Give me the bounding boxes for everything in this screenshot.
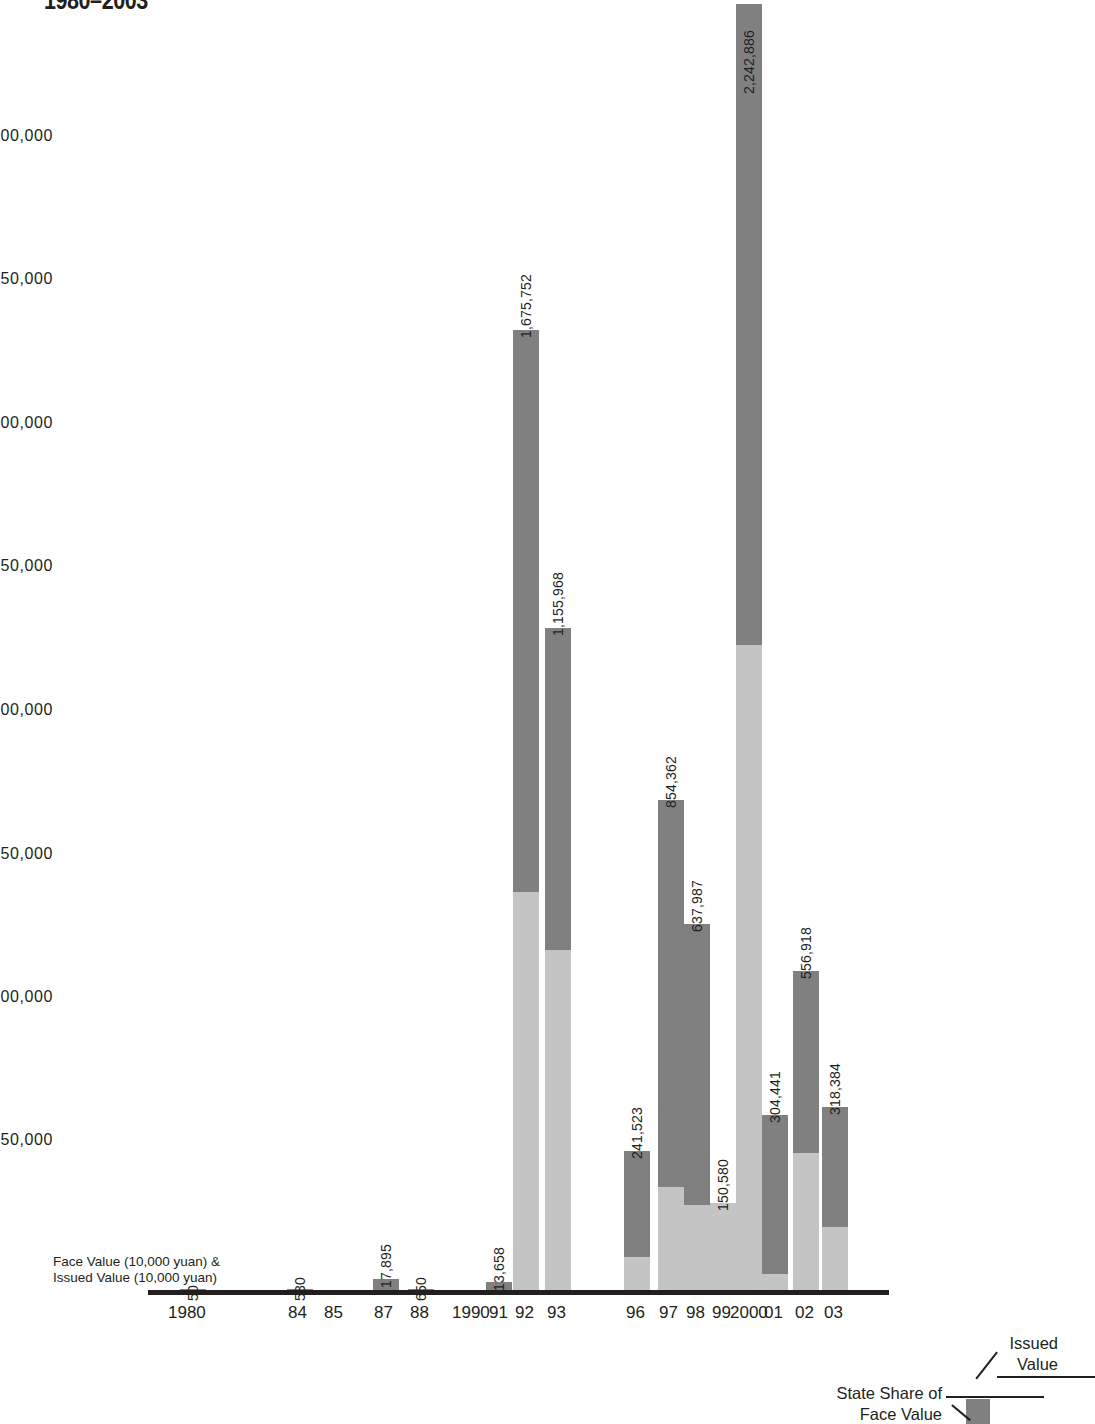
bar-value-label: 17,895 bbox=[378, 1244, 394, 1288]
x-axis-tick-label: 91 bbox=[489, 1303, 508, 1323]
x-axis-tick-label: 01 bbox=[764, 1303, 783, 1323]
bar-segment-face-value bbox=[684, 924, 710, 1205]
y-axis-title-line2: Issued Value (10,000 yuan) bbox=[53, 1270, 253, 1286]
bar-value-label: 241,523 bbox=[629, 1107, 645, 1159]
bar-segment-state-share bbox=[658, 1187, 684, 1290]
bar-segment-face-value bbox=[736, 4, 762, 645]
y-axis-title: Face Value (10,000 yuan) & Issued Value … bbox=[53, 1254, 253, 1286]
legend-issued-value: Issued Value bbox=[988, 1333, 1058, 1375]
y-axis-tick-label: 1,000,000 bbox=[0, 701, 53, 719]
y-axis-title-line1: Face Value (10,000 yuan) & bbox=[53, 1254, 253, 1270]
bar-value-label: 1,155,968 bbox=[550, 572, 566, 636]
x-axis-tick-label: 1990 bbox=[452, 1303, 490, 1323]
y-axis-tick-label: 250,000 bbox=[0, 1131, 53, 1149]
bar-segment-state-share bbox=[624, 1257, 650, 1290]
x-axis-tick-label: 92 bbox=[515, 1303, 534, 1323]
x-axis-tick-label: 85 bbox=[324, 1303, 343, 1323]
bar-segment-state-share bbox=[762, 1274, 788, 1290]
legend-issued-line2: Value bbox=[988, 1354, 1058, 1375]
bar-column bbox=[793, 971, 819, 1290]
bar-column bbox=[513, 330, 539, 1290]
y-axis-tick-label: 1,500,000 bbox=[0, 414, 53, 432]
legend-leader-line-state bbox=[946, 1396, 1044, 1398]
bar-column bbox=[762, 1115, 788, 1290]
bar-value-label: 318,384 bbox=[827, 1063, 843, 1115]
legend-leader-line-issued-horizontal bbox=[997, 1376, 1095, 1378]
bar-segment-state-share bbox=[793, 1153, 819, 1290]
legend-state-line1: State Share of bbox=[820, 1383, 942, 1404]
bar-column bbox=[822, 1107, 848, 1290]
y-axis-tick-label: 1,750,000 bbox=[0, 270, 53, 288]
bar-segment-state-share bbox=[822, 1227, 848, 1290]
legend-state-line2: Face Value bbox=[820, 1404, 942, 1424]
bar-segment-state-share bbox=[545, 950, 571, 1290]
bar-value-label: 150,580 bbox=[715, 1159, 731, 1211]
bar-value-label: 556,918 bbox=[798, 927, 814, 979]
y-axis-tick-label: 1,250,000 bbox=[0, 557, 53, 575]
bar-column bbox=[736, 4, 762, 1290]
y-axis-tick-label: 750,000 bbox=[0, 845, 53, 863]
x-axis-baseline bbox=[148, 1290, 889, 1295]
bar-value-label: 304,441 bbox=[767, 1071, 783, 1123]
x-axis-tick-label: 2000 bbox=[730, 1303, 768, 1323]
bar-segment-face-value bbox=[762, 1115, 788, 1274]
bar-column bbox=[710, 1203, 736, 1290]
bar-segment-state-share bbox=[684, 1205, 710, 1290]
bar-value-label: 854,362 bbox=[663, 756, 679, 808]
x-axis-tick-label: 93 bbox=[547, 1303, 566, 1323]
x-axis-tick-label: 99 bbox=[712, 1303, 731, 1323]
x-axis-tick-label: 1980 bbox=[168, 1303, 206, 1323]
y-axis-tick-label: 500,000 bbox=[0, 988, 53, 1006]
bar-segment-face-value bbox=[513, 330, 539, 892]
bar-segment-state-share bbox=[736, 645, 762, 1290]
x-axis-tick-label: 96 bbox=[626, 1303, 645, 1323]
bar-segment-face-value bbox=[658, 800, 684, 1187]
bar-value-label: 637,987 bbox=[689, 880, 705, 932]
x-axis-tick-label: 84 bbox=[288, 1303, 307, 1323]
bar-segment-state-share bbox=[710, 1203, 736, 1290]
bar-value-label: 13,658 bbox=[491, 1247, 507, 1291]
x-axis-tick-label: 88 bbox=[410, 1303, 429, 1323]
bar-column bbox=[624, 1151, 650, 1290]
bar-value-label: 1,675,752 bbox=[518, 274, 534, 338]
chart-plot-area: 2,000,0001,750,0001,500,0001,250,0001,00… bbox=[0, 0, 1095, 1424]
bar-segment-state-share bbox=[513, 892, 539, 1290]
bar-column bbox=[684, 924, 710, 1290]
bar-segment-face-value bbox=[624, 1151, 650, 1257]
x-axis-tick-label: 87 bbox=[374, 1303, 393, 1323]
x-axis-tick-label: 03 bbox=[824, 1303, 843, 1323]
bar-segment-face-value bbox=[545, 628, 571, 950]
bar-segment-face-value bbox=[822, 1107, 848, 1227]
legend-state-share: State Share of Face Value bbox=[820, 1383, 942, 1424]
y-axis-tick-label: 2,000,000 bbox=[0, 127, 53, 145]
bar-segment-face-value bbox=[793, 971, 819, 1153]
x-axis-tick-label: 98 bbox=[686, 1303, 705, 1323]
x-axis-tick-label: 97 bbox=[659, 1303, 678, 1323]
x-axis-tick-label: 02 bbox=[795, 1303, 814, 1323]
bar-column bbox=[658, 800, 684, 1290]
legend-issued-line1: Issued bbox=[988, 1333, 1058, 1354]
bar-value-label: 2,242,886 bbox=[741, 30, 757, 94]
bar-column bbox=[545, 628, 571, 1290]
